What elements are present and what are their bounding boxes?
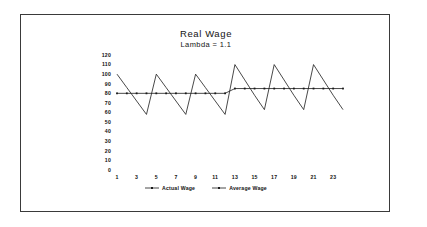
series-marker — [332, 88, 334, 90]
series-marker — [116, 92, 118, 94]
chart-area: Real Wage Lambda = 1.1 01020304050607080… — [21, 15, 391, 213]
series-marker — [185, 92, 187, 94]
legend-line-icon — [145, 185, 159, 191]
series-marker — [126, 92, 128, 94]
series-marker — [146, 92, 148, 94]
plot-lines — [21, 15, 391, 213]
series-marker — [303, 88, 305, 90]
legend-entry: Average Wage — [212, 185, 267, 191]
series-marker — [224, 92, 226, 94]
series-marker — [313, 88, 315, 90]
figure-frame: Real Wage Lambda = 1.1 01020304050607080… — [20, 14, 390, 212]
series-marker — [342, 88, 344, 90]
series-marker — [254, 88, 256, 90]
series-marker — [165, 92, 167, 94]
series-marker — [244, 88, 246, 90]
series-line — [117, 65, 343, 115]
chart-legend: Actual WageAverage Wage — [21, 185, 391, 191]
series-marker — [136, 92, 138, 94]
series-marker — [283, 88, 285, 90]
series-marker — [273, 88, 275, 90]
series-marker — [175, 92, 177, 94]
series-marker — [214, 92, 216, 94]
series-marker — [155, 92, 157, 94]
legend-entry: Actual Wage — [145, 185, 195, 191]
legend-label: Actual Wage — [162, 185, 195, 191]
series-marker — [322, 88, 324, 90]
series-marker — [205, 92, 207, 94]
series-marker — [293, 88, 295, 90]
series-marker — [263, 88, 265, 90]
legend-label: Average Wage — [229, 185, 267, 191]
series-marker — [195, 92, 197, 94]
legend-line-icon — [212, 185, 226, 191]
series-marker — [234, 88, 236, 90]
